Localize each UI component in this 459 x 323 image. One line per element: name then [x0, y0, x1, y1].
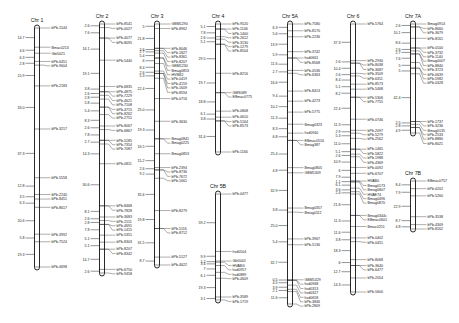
chromosome-chr5a-marker-leader	[293, 58, 304, 62]
chromosome-chr2-marker-label: bPb-4875	[117, 90, 133, 94]
chromosome-chr6-marker-label: bPb-5822	[368, 152, 384, 156]
chromosome-chr5a-distance-label: 13.9	[271, 43, 278, 47]
chromosome-chr3-marker-label: bPb-8712	[172, 231, 188, 235]
chromosome-chr3-distance-label: 19.3	[138, 128, 145, 132]
chromosome-chr1-distance-label: 12.8	[18, 184, 25, 188]
chromosome-chr2-marker-leader	[105, 206, 116, 210]
chromosome-chr2-marker-label: bPb-8468	[117, 204, 133, 208]
chromosome-chr5a-marker-label: Bmag0357	[305, 206, 322, 210]
chromosome-chr4-distance-label: 3.8	[201, 117, 206, 121]
chromosome-chr2-marker-label: bPb-7108	[117, 103, 133, 107]
chromosome-chr7a-marker-label: bPb-3723	[428, 68, 444, 72]
chromosome-chr6-marker-label: Bmag0870	[368, 201, 385, 205]
chromosome-chr6-marker-label: bPb-8068	[368, 258, 384, 262]
chromosome-chr5b-distance-label: 7	[204, 267, 206, 271]
chromosome-chr3-distance-label: 22.4	[138, 87, 145, 91]
chromosome-chr3-marker-leader	[160, 78, 171, 92]
chromosome-chr6-distance-label: 21.8	[334, 203, 341, 207]
chromosome-chr3-marker-label: bPb-8594	[172, 91, 188, 95]
chromosome-chr7a-marker-leader	[416, 54, 427, 61]
chromosome-chr2-distance-label: 7.8	[85, 228, 90, 232]
chromosome-chr7a-marker-label: bPb-8660	[428, 27, 444, 31]
chromosome-chr7a-marker-label: bPb-8880	[428, 137, 444, 141]
chromosome-chr2-marker-label: bPb-8342	[117, 252, 133, 256]
linkage-map: Chr 1bPb-1544Bmac0213Gbi5021bPb-6451bPb-…	[0, 0, 459, 323]
chromosome-chr1-distance-label: 20.6	[18, 219, 25, 223]
chromosome-chr5a-distance-label: 2.1	[273, 289, 278, 293]
chromosome-chr6-marker-leader	[356, 97, 367, 101]
chromosome-chr5a-marker-label: hvd0968	[305, 282, 319, 286]
chromosome-chr7a-distance-label: 5	[399, 69, 401, 73]
chromosome-chr2-distance-label: 2.8	[85, 221, 90, 225]
chromosome-chr6-marker-label: bPb-0092	[368, 166, 384, 170]
chromosome-chr2-marker-label: bPb-7354	[117, 143, 133, 147]
chromosome-chr6-marker-label: bPb-6477	[368, 268, 384, 272]
chromosome-chr5a-distance-label: 2.7	[273, 70, 278, 74]
chromosome-chr5a-marker-leader	[293, 304, 304, 306]
chromosome-chr6-marker-label: bPb-0402	[368, 236, 384, 240]
chromosome-chr5a-distance-label: 3.8	[273, 208, 278, 212]
chromosome-chr5a-marker-label: bPb-3967	[305, 237, 321, 241]
chromosome-chr6-marker-label: bPb-2097	[368, 129, 384, 133]
chromosome-chr6-marker-leader	[356, 133, 367, 135]
chromosome-chr5a-distance-label: 10.2	[271, 105, 278, 109]
chromosome-chr5a-marker-label: EBmac0516	[305, 139, 325, 143]
chromosome-chr3-marker-label: bPb-5116	[172, 227, 187, 231]
chromosome-chr5a-distance-label: 16.6	[271, 81, 278, 85]
chromosome-chr6-marker-label: bPb-5764	[368, 22, 384, 26]
chromosome-chr2-distance-label: 14.7	[83, 258, 90, 262]
chromosome-chr6-marker-leader	[356, 157, 367, 163]
chromosome-chr2-marker-label: bPb-7087	[117, 147, 133, 151]
chromosome-chr5b-marker-label: HVABG	[233, 264, 246, 268]
chromosome-chr3-marker-leader	[160, 139, 171, 143]
chromosome-chr2-marker-label: bPb-5351	[117, 233, 133, 237]
chromosome-chr6-marker-leader	[356, 188, 367, 194]
chromosome-chr5b-distance-label: 59.2	[199, 221, 206, 225]
chromosome-chr7a-title: Chr 7A	[405, 13, 422, 19]
chromosome-chr7a-marker-label: bPb-0100	[428, 46, 444, 50]
chromosome-chr5a-distance-label: 6.8	[273, 135, 278, 139]
chromosome-chr6-marker-leader	[356, 63, 367, 65]
chromosome-chr4-marker-label: bPb-5164	[233, 120, 249, 124]
chromosome-chr5b-marker-leader	[221, 266, 232, 270]
chromosome-chr2-marker-label: bPb-6750	[117, 268, 133, 272]
chromosome-chr5b-marker-label: bPb-0477	[233, 192, 249, 196]
chromosome-chr6-marker-label: Bmag0344c	[368, 214, 387, 218]
chromosome-chr2-distance-label: 2.6	[85, 270, 90, 274]
chromosome-chr2-marker-label: bPb-0027	[117, 27, 133, 31]
chromosome-chr2-distance-label: 8.1	[85, 210, 90, 214]
chromosome-chr2-marker-leader	[105, 221, 116, 222]
chromosome-chr2-distance-label: 2.6	[85, 24, 90, 28]
chromosome-chr7a-distance-label: 5	[399, 64, 401, 68]
chromosome-chr4-distance-label: 18.8	[199, 100, 206, 104]
chromosome-chr6-marker-label: bPb-5468	[368, 87, 384, 91]
chromosome-chr6-bar	[351, 21, 356, 295]
chromosome-chr5a-distance-label: 11.6	[271, 62, 278, 66]
chromosome-chr2-marker-label: bPb-3683	[117, 215, 133, 219]
chromosome-chr6-marker-leader	[356, 76, 367, 78]
chromosome-chr5a-marker-label: bPb-0536	[305, 69, 321, 73]
chromosome-chr7a-marker-label: bPb-0639	[428, 73, 444, 77]
chromosome-chr5b-marker-label: bPb-1719	[233, 300, 249, 304]
chromosome-chr5b-marker-leader	[221, 262, 232, 265]
chromosome-chr4-marker-leader	[221, 39, 232, 42]
chromosome-chr3-marker-label: Bmag0853	[172, 152, 189, 156]
chromosome-chr4-marker-label: bPb-3130	[233, 41, 249, 45]
chromosome-chr7a-marker-leader	[416, 27, 427, 28]
chromosome-chr6-marker-label: Bmac0251	[368, 225, 385, 229]
chromosome-chr7b-distance-label: 22.9	[394, 205, 401, 209]
chromosome-chr5a-distance-label: 32.9	[271, 189, 278, 193]
chromosome-chr3-distance-label: 25.0	[138, 108, 145, 112]
chromosome-chr7a-marker-leader	[416, 48, 427, 52]
chromosome-chr6-distance-label: 8.4	[336, 78, 341, 82]
chromosome-chr6-marker-label: bPb-4369	[368, 161, 384, 165]
chromosome-chr2-marker-label: bPb-0811	[117, 162, 132, 166]
chromosome-chr6-distance-label: 11.6	[334, 231, 341, 235]
chromosome-chr1-distance-label: 6.3	[20, 56, 25, 60]
chromosome-chr2-marker-leader	[105, 38, 116, 42]
chromosome-chr3-distance-label: 9.2	[140, 172, 145, 176]
chromosome-chr2-title: Chr 2	[96, 13, 109, 19]
chromosome-chr6-distance-label: 22.4	[334, 107, 341, 111]
chromosome-chr2-marker-leader	[105, 249, 116, 253]
chromosome-chr4-marker-label: bPb-2612	[233, 36, 249, 40]
